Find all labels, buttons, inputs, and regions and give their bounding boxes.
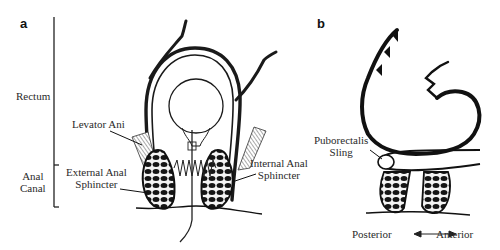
panel-letter-b: b	[317, 16, 325, 31]
label-external-anal-sphincter: External Anal Sphincter	[66, 166, 127, 190]
central-tube	[180, 130, 192, 242]
rectal-lumen	[169, 79, 223, 133]
label-anal-canal: Anal Canal	[20, 170, 46, 194]
panel-b-drawing	[362, 30, 480, 237]
rectal-ampulla	[362, 30, 479, 154]
label-external-line1: External Anal	[66, 166, 127, 178]
label-anterior: Anterior	[436, 228, 473, 240]
region-bracket	[54, 17, 59, 207]
label-internal-line2: Sphincter	[250, 169, 308, 181]
label-posterior: Posterior	[352, 228, 392, 240]
label-puborectalis-line1: Puborectalis	[314, 134, 368, 146]
panel-letter-a: a	[20, 16, 27, 31]
label-puborectalis-sling: Puborectalis Sling	[314, 134, 368, 158]
anorectal-anatomy-figure: a b Rectum Anal Canal Levator Ani Extern…	[0, 0, 500, 250]
label-anal-canal-line1: Anal	[20, 170, 46, 182]
label-internal-line1: Internal Anal	[250, 157, 308, 169]
sphincter-left	[143, 150, 175, 209]
label-puborectalis-line2: Sling	[314, 146, 368, 158]
label-levator-ani: Levator Ani	[72, 118, 125, 130]
sphincter-posterior	[380, 172, 410, 212]
sphincter-right	[201, 150, 232, 209]
label-rectum: Rectum	[16, 90, 50, 102]
sphincter-anterior	[422, 172, 450, 213]
label-anal-canal-line2: Canal	[20, 182, 46, 194]
label-external-line2: Sphincter	[66, 178, 127, 190]
label-internal-anal-sphincter: Internal Anal Sphincter	[250, 157, 308, 181]
